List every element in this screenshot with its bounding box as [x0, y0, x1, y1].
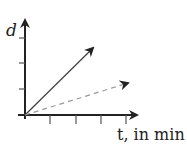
- y-axis-label: d: [6, 20, 17, 40]
- solid-line-series: [25, 48, 93, 115]
- x-ticks: [50, 115, 126, 124]
- x-axis-label: t, in min: [117, 125, 185, 144]
